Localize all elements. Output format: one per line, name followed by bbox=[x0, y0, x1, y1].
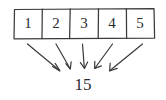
sum-value: 15 bbox=[0, 76, 166, 94]
arrow-from-cell-5 bbox=[110, 44, 143, 71]
arrow-from-cell-1 bbox=[28, 44, 60, 71]
arrow-group bbox=[28, 44, 143, 71]
diagram-canvas: 1 2 3 4 5 15 bbox=[0, 0, 166, 100]
arrow-from-cell-2 bbox=[56, 44, 71, 69]
array-cell-3: 4 bbox=[98, 16, 126, 31]
array-cell-4: 5 bbox=[126, 16, 154, 31]
array-cell-1: 2 bbox=[42, 16, 70, 31]
arrow-from-cell-3 bbox=[80, 44, 87, 68]
array-cell-0: 1 bbox=[14, 16, 42, 31]
array-cell-2: 3 bbox=[70, 16, 98, 31]
